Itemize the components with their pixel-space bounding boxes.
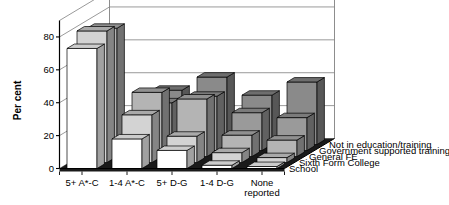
bar-chart-3d: 020406080 5+ A*-C1-4 A*-C5+ D-G1-4 D-GNo… (0, 0, 449, 205)
y-axis-title: Per cent (12, 80, 23, 120)
svg-text:20: 20 (43, 130, 54, 141)
svg-text:80: 80 (43, 31, 54, 42)
svg-text:None: None (251, 177, 274, 188)
svg-text:Not in education/training: Not in education/training (329, 139, 431, 150)
svg-text:40: 40 (43, 97, 54, 108)
x-axis-labels: 5+ A*-C1-4 A*-C5+ D-G1-4 D-GNonereported (60, 172, 285, 199)
y-axis-ticks: 020406080 (43, 31, 59, 174)
svg-text:60: 60 (43, 64, 54, 75)
svg-text:Per cent: Per cent (12, 80, 23, 120)
chart-container: 020406080 5+ A*-C1-4 A*-C5+ D-G1-4 D-GNo… (0, 0, 449, 205)
svg-text:0: 0 (49, 163, 54, 174)
svg-text:reported: reported (244, 187, 279, 198)
svg-text:5+ A*-C: 5+ A*-C (65, 177, 98, 188)
svg-text:1-4 D-G: 1-4 D-G (200, 177, 234, 188)
svg-text:5+ D-G: 5+ D-G (157, 177, 188, 188)
svg-text:1-4 A*-C: 1-4 A*-C (109, 177, 145, 188)
